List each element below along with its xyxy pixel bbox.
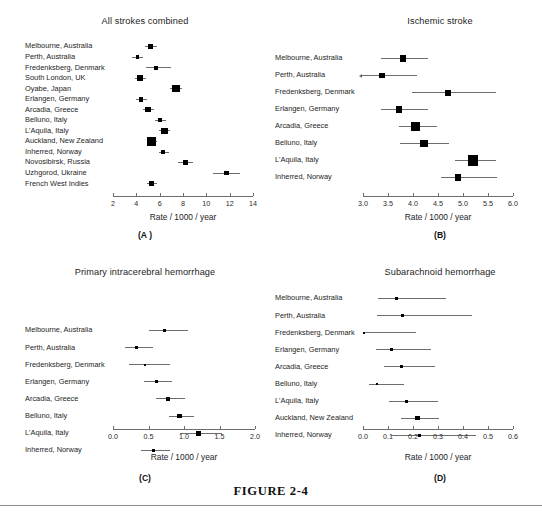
x-axis-tick: [438, 426, 439, 429]
data-point-marker: [139, 97, 144, 102]
x-axis-ticklabel: 0.5: [474, 432, 502, 441]
confidence-interval-line: [376, 349, 432, 350]
confidence-interval-line: [441, 177, 497, 178]
data-point-marker: [400, 365, 403, 368]
data-point-marker: [136, 55, 140, 59]
data-point-marker: [161, 128, 167, 134]
confidence-interval-line: [363, 332, 416, 333]
row-label-d-6: L'Aquila, Italy: [275, 397, 361, 404]
confidence-interval-line: [156, 398, 185, 399]
row-label-a-10: Inherred, Norway: [25, 148, 111, 155]
caption-rule: [0, 505, 542, 506]
x-axis-ticklabel: 0.0: [99, 432, 127, 441]
x-axis-ticklabel: 3.5: [374, 199, 402, 208]
row-label-b-1: Perth, Australia: [275, 71, 361, 78]
data-point-marker: [154, 66, 158, 70]
data-point-marker: [390, 348, 393, 351]
row-label-c-1: Perth, Australia: [25, 344, 111, 351]
row-label-a-3: South London, UK: [25, 74, 111, 81]
x-axis-tick: [413, 193, 414, 196]
data-point-marker: [177, 414, 182, 419]
data-point-marker: [172, 85, 180, 93]
data-point-marker: [401, 314, 404, 317]
x-axis-tick: [206, 193, 207, 196]
data-point-marker: [135, 346, 138, 349]
x-axis-tick: [513, 193, 514, 196]
panel-d-title: Subarachnoid hemorrhage: [340, 267, 540, 277]
row-label-a-13: French West Indies: [25, 180, 111, 187]
row-label-c-5: Belluno, Italy: [25, 412, 111, 419]
row-label-a-7: Belluno, Italy: [25, 116, 111, 123]
row-label-b-6: L'Aquila, Italy: [275, 156, 361, 163]
x-axis-ticklabel: 3.0: [349, 199, 377, 208]
x-axis-tick: [149, 426, 150, 429]
row-label-a-1: Perth, Australia: [25, 53, 111, 60]
x-axis-ticklabel: 14: [239, 199, 267, 208]
row-label-d-5: Belluno, Italy: [275, 380, 361, 387]
x-axis-ticklabel: 0.2: [399, 432, 427, 441]
figure-caption: FIGURE 2-4: [0, 484, 542, 499]
data-point-marker: [363, 332, 365, 334]
data-point-marker: [415, 416, 420, 421]
confidence-interval-line: [389, 401, 438, 402]
x-axis-line-c: [113, 429, 255, 430]
data-point-marker: [379, 73, 385, 79]
row-label-c-0: Melbourne, Australia: [25, 326, 111, 333]
x-axis-tick: [255, 426, 256, 429]
x-axis-tick: [183, 193, 184, 196]
x-axis-tick: [388, 193, 389, 196]
panel-letter-d: (D): [340, 473, 540, 483]
row-label-b-0: Melbourne, Australia: [275, 54, 361, 61]
row-label-a-6: Arcadia, Greece: [25, 106, 111, 113]
data-point-marker: [420, 140, 428, 148]
x-axis-line-d: [363, 429, 513, 430]
data-point-marker: [137, 75, 143, 81]
confidence-interval-line: [149, 330, 188, 331]
row-label-d-7: Auckland, New Zealand: [275, 414, 361, 421]
x-axis-tick: [184, 426, 185, 429]
x-axis-line-b: [363, 196, 513, 197]
x-axis-ticklabel: 5.0: [449, 199, 477, 208]
data-point-marker: [183, 160, 188, 165]
data-point-marker: [400, 55, 406, 61]
ci-left-arrow-icon: [359, 74, 362, 78]
data-point-marker: [147, 137, 156, 146]
row-label-a-2: Fredenksberg, Denmark: [25, 64, 111, 71]
data-point-marker: [163, 329, 166, 332]
row-label-a-4: Oyabe, Japan: [25, 85, 111, 92]
x-axis-tick: [488, 426, 489, 429]
x-axis-ticklabel: 5.5: [474, 199, 502, 208]
row-label-a-0: Melbourne, Australia: [25, 42, 111, 49]
data-point-marker: [468, 155, 478, 165]
x-axis-tick: [513, 426, 514, 429]
data-point-marker: [455, 174, 462, 181]
x-axis-ticklabel: 0.6: [499, 432, 527, 441]
row-label-a-8: L'Aquila, Italy: [25, 127, 111, 134]
x-axis-ticklabel: 0.5: [135, 432, 163, 441]
data-point-marker: [224, 171, 229, 176]
confidence-interval-line: [401, 418, 439, 419]
panel-letter-a: (A ): [45, 230, 245, 240]
row-label-b-7: Inherred, Norway: [275, 173, 361, 180]
data-point-marker: [405, 400, 408, 403]
row-label-c-3: Erlangen, Germany: [25, 378, 111, 385]
confidence-interval-line: [369, 384, 404, 385]
x-axis-tick: [413, 426, 414, 429]
data-point-marker: [148, 44, 153, 49]
x-axis-tick: [113, 426, 114, 429]
data-point-marker: [396, 106, 402, 112]
x-axis-tick: [220, 426, 221, 429]
data-point-marker: [145, 107, 150, 112]
data-point-marker: [445, 90, 451, 96]
x-axis-ticklabel: 0.1: [374, 432, 402, 441]
panel-a-title: All strokes combined: [45, 16, 245, 26]
data-point-marker: [166, 397, 170, 401]
x-axis-tick: [136, 193, 137, 196]
row-label-c-2: Fredenksberg, Denmark: [25, 361, 111, 368]
row-label-b-3: Erlangen, Germany: [275, 105, 361, 112]
confidence-interval-line: [141, 450, 169, 451]
data-point-marker: [395, 297, 398, 300]
data-point-marker: [158, 118, 162, 122]
figure-2-4: All strokes combinedMelbourne, Australia…: [0, 0, 542, 516]
x-axis-tick: [363, 193, 364, 196]
